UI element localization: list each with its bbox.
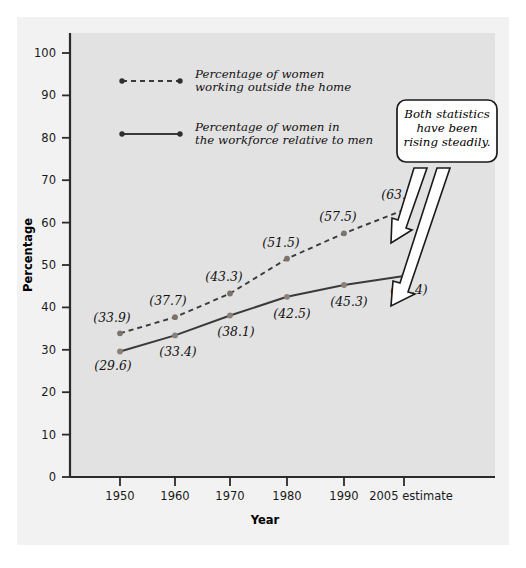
solid-series-data-labels: (29.6) (33.4) (38.1) (42.5) (45.3) (47.4… — [94, 282, 427, 373]
y-axis-title: Percentage — [21, 218, 35, 292]
data-label-38-1: (38.1) — [217, 324, 254, 339]
y-tick-70: 70 — [41, 173, 56, 187]
data-label-33-9: (33.9) — [93, 310, 130, 325]
data-point-marker — [284, 256, 290, 262]
callout-line-2: have been — [416, 121, 477, 135]
legend-swatch-solid — [119, 131, 182, 136]
data-label-45-3: (45.3) — [330, 294, 367, 309]
y-tick-0: 0 — [49, 470, 56, 484]
data-point-marker — [227, 313, 233, 319]
legend-label-1-line1: Percentage of women — [194, 67, 324, 81]
data-label-42-5: (42.5) — [273, 306, 310, 321]
series-women-workforce-relative-to-men — [117, 273, 407, 354]
data-point-marker — [341, 230, 347, 236]
data-label-57-5: (57.5) — [319, 209, 356, 224]
dashed-series-line — [120, 210, 404, 333]
chart-figure: 100 90 80 70 60 50 40 30 20 10 0 Percent… — [0, 0, 526, 568]
chart-legend: Percentage of women working outside the … — [119, 67, 373, 147]
x-tick-1950: 1950 — [105, 489, 134, 503]
data-label-51-5: (51.5) — [262, 235, 299, 250]
y-tick-100: 100 — [34, 46, 56, 60]
y-tick-90: 90 — [41, 88, 56, 102]
data-point-marker — [172, 314, 178, 320]
data-label-37-7: (37.7) — [149, 293, 186, 308]
data-point-marker — [227, 291, 233, 297]
solid-series-line — [120, 276, 404, 351]
series-women-working-outside-home — [117, 207, 407, 336]
data-label-29-6: (29.6) — [94, 358, 131, 373]
x-tick-1970: 1970 — [215, 489, 244, 503]
x-tick-1960: 1960 — [160, 489, 189, 503]
data-point-marker — [117, 330, 123, 336]
y-tick-20: 20 — [41, 385, 56, 399]
y-axis-tick-labels: 100 90 80 70 60 50 40 30 20 10 0 — [34, 46, 56, 484]
data-label-43-3: (43.3) — [205, 269, 242, 284]
dashed-series-data-labels: (33.9) (37.7) (43.3) (51.5) (57.5) (63.0… — [93, 187, 418, 325]
x-axis-ticks — [120, 477, 404, 486]
x-tick-2005: 2005 estimate — [369, 489, 453, 503]
chart-svg: 100 90 80 70 60 50 40 30 20 10 0 Percent… — [0, 0, 526, 568]
y-tick-60: 60 — [41, 216, 56, 230]
y-tick-50: 50 — [41, 258, 56, 272]
y-axis-ticks — [62, 53, 70, 477]
y-tick-40: 40 — [41, 300, 56, 314]
y-tick-80: 80 — [41, 131, 56, 145]
data-point-marker — [172, 333, 178, 339]
data-label-33-4: (33.4) — [159, 344, 196, 359]
legend-label-2-line1: Percentage of women in — [194, 120, 340, 134]
callout-line-3: rising steadily. — [404, 135, 491, 149]
callout-line-1: Both statistics — [403, 107, 489, 121]
callout-box: Both statistics have been rising steadil… — [397, 100, 497, 162]
x-axis-tick-labels: 1950 1960 1970 1980 1990 2005 estimate — [105, 489, 452, 503]
data-point-marker — [117, 349, 123, 355]
legend-label-1-line2: working outside the home — [195, 80, 351, 94]
x-axis-title: Year — [250, 513, 280, 527]
x-tick-1980: 1980 — [272, 489, 301, 503]
legend-swatch-dashed — [119, 78, 182, 83]
y-tick-10: 10 — [41, 428, 56, 442]
x-tick-1990: 1990 — [329, 489, 358, 503]
data-point-marker — [284, 294, 290, 300]
legend-label-2-line2: the workforce relative to men — [195, 133, 373, 147]
y-tick-30: 30 — [41, 343, 56, 357]
data-point-marker — [341, 282, 347, 288]
